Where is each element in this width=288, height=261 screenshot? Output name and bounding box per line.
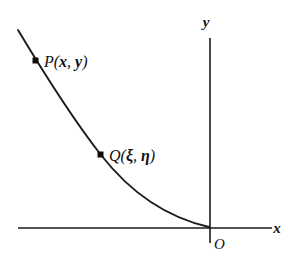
- point-label-q-eta: η: [141, 147, 150, 165]
- y-axis-label: y: [201, 14, 210, 30]
- point-label-p-prefix: P(: [43, 53, 61, 71]
- point-label-q: Q(ξ, η): [109, 147, 155, 165]
- point-marker-q: [98, 152, 104, 158]
- x-axis-label: x: [272, 220, 281, 236]
- point-label-q-separator: ,: [133, 147, 141, 164]
- point-marker-p: [33, 58, 39, 64]
- point-label-q-suffix: ): [149, 147, 155, 165]
- coordinate-diagram: P(x, y) Q(ξ, η) y x O: [0, 0, 288, 261]
- point-label-p-x: x: [58, 53, 67, 70]
- point-label-p: P(x, y): [43, 53, 88, 71]
- point-label-p-suffix: ): [81, 53, 87, 71]
- point-label-p-separator: ,: [67, 53, 75, 70]
- origin-label: O: [214, 236, 225, 252]
- point-label-q-prefix: Q(: [109, 147, 128, 165]
